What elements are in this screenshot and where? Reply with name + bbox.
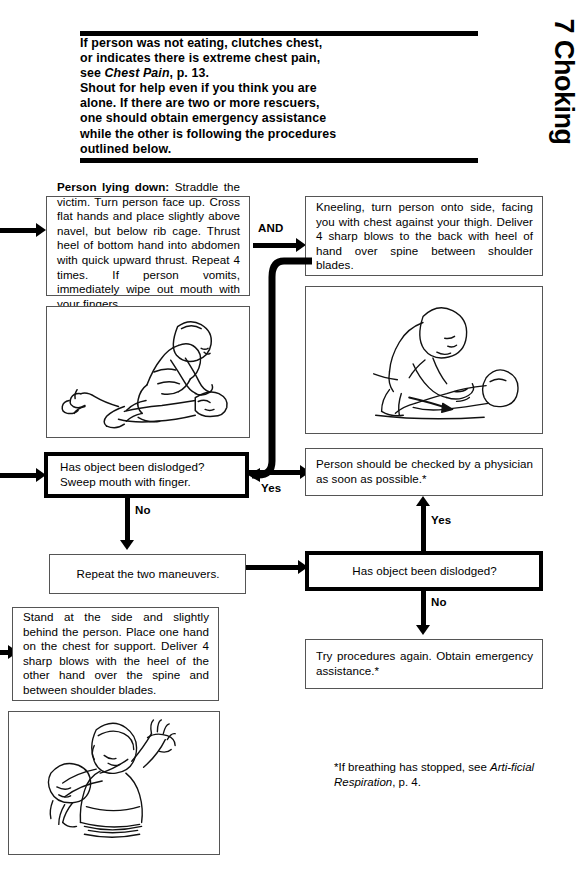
intro-line-7: while the other is following the procedu… [80, 127, 480, 142]
box-try-again: Try procedures again. Obtain emergency a… [305, 639, 543, 689]
intro-line-8: outlined below. [80, 142, 480, 157]
box-standing-back-blows-text: Stand at the side and slightly behind th… [23, 610, 209, 698]
box-repeat-maneuvers-text: Repeat the two maneuvers. [60, 567, 236, 582]
no1-arrow-head [120, 540, 134, 550]
box-person-lying-down-lead: Person lying down: [57, 180, 169, 193]
box-repeat-maneuvers: Repeat the two maneuvers. [49, 554, 246, 594]
connector-label-no-2: No [431, 596, 447, 608]
box-standing-back-blows: Stand at the side and slightly behind th… [12, 607, 219, 701]
repeat-to-decision2-line [246, 565, 302, 570]
box-decision-dislodged-2: Has object been dislodged? [305, 551, 543, 591]
yes1-arrow-line [249, 470, 305, 475]
box-decision-dislodged-2-text: Has object been dislodged? [319, 564, 530, 579]
intro-line-3b: , p. 13. [170, 66, 209, 80]
footnote-ref-1: Arti- [490, 761, 511, 773]
footnote-breathing-stopped: *If breathing has stopped, see Arti-fici… [334, 760, 544, 789]
intro-line-3: see Chest Pain, p. 13. [80, 66, 480, 81]
yes2-arrow-head [416, 496, 430, 506]
footnote-part-b: , p. 4. [392, 776, 421, 788]
box-kneeling-side-blows: Kneeling, turn person onto side, facing … [305, 196, 543, 276]
no1-arrow-line [125, 498, 130, 544]
box-see-physician-text: Person should be checked by a physician … [316, 457, 533, 486]
intro-line-1: If person was not eating, clutches chest… [80, 36, 480, 51]
box-see-physician: Person should be checked by a physician … [305, 448, 543, 496]
intro-rule-bottom [80, 158, 478, 163]
illustration-side-back-blows [305, 286, 543, 434]
intro-line-6: one should obtain emergency assistance [80, 111, 480, 126]
intro-line-2: or indicates there is extreme chest pain… [80, 51, 480, 66]
intro-line-3-ref: Chest Pain [105, 66, 170, 80]
page-tab-title-text: 7 Choking [550, 18, 577, 144]
illustration-straddle-victim [46, 306, 250, 438]
manual-page: 7 Choking If person was not eating, clut… [0, 0, 588, 887]
footnote-part-a: *If breathing has stopped, see [334, 761, 490, 773]
inflow-arrow-top-line [0, 228, 38, 233]
illustration-standing-back-blows [8, 711, 220, 855]
box-decision-dislodged-sweep-text: Has object been dislodged? Sweep mouth w… [60, 460, 236, 489]
connector-label-yes-2: Yes [431, 514, 451, 526]
box-person-lying-down: Person lying down: Straddle the victim. … [46, 196, 250, 296]
box-decision-dislodged-sweep-line1: Has object been dislodged? [60, 460, 236, 475]
page-tab-title: 7 Choking [540, 6, 586, 186]
yes2-arrow-line [421, 505, 426, 553]
box-decision-dislodged-sweep-line2: Sweep mouth with finger. [60, 475, 236, 490]
connector-label-yes-1: Yes [261, 482, 281, 494]
intro-line-5: alone. If there are two or more rescuers… [80, 96, 480, 111]
connector-label-and: AND [258, 222, 284, 234]
intro-line-4: Shout for help even if you think you are [80, 81, 480, 96]
intro-text: If person was not eating, clutches chest… [80, 36, 480, 157]
box-try-again-text: Try procedures again. Obtain emergency a… [316, 649, 533, 678]
connector-label-no-1: No [135, 504, 151, 516]
inflow-arrow-decision-line [0, 473, 40, 478]
box-person-lying-down-body: Straddle the victim. Turn person face up… [57, 180, 240, 310]
no2-arrow-head [416, 625, 430, 635]
inflow-arrow-top-head [36, 223, 46, 237]
and-arrow-line [253, 243, 299, 248]
box-kneeling-side-blows-text: Kneeling, turn person onto side, facing … [316, 200, 533, 273]
no2-arrow-line [421, 591, 426, 629]
box-person-lying-down-text: Person lying down: Straddle the victim. … [57, 180, 240, 311]
intro-line-3a: see [80, 66, 105, 80]
box-decision-dislodged-sweep: Has object been dislodged? Sweep mouth w… [44, 452, 249, 498]
